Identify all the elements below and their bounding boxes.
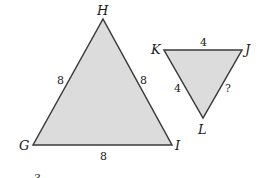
side-label-jl: ? <box>225 82 231 95</box>
vertex-label-h: H <box>96 3 109 18</box>
vertex-label-k: K <box>150 42 162 57</box>
vertex-label-l: L <box>197 122 207 137</box>
side-label-gi: 8 <box>100 150 107 163</box>
vertex-label-g: G <box>19 138 29 153</box>
side-label-gh: 8 <box>57 74 64 87</box>
triangle-ghi <box>33 19 172 145</box>
vertex-label-i: I <box>174 138 181 153</box>
side-label-kl: 4 <box>174 82 181 95</box>
vertex-label-j: J <box>242 42 251 57</box>
figure: H G I 8 8 8 K J L 4 4 ? 3 <box>0 0 267 178</box>
side-label-hi: 8 <box>140 74 147 87</box>
fragment-text: 3 <box>34 172 41 178</box>
side-label-kj: 4 <box>200 36 207 49</box>
